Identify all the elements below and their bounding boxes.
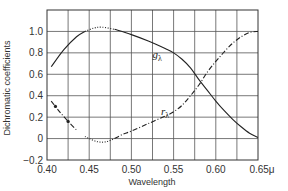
g-lambda-label: gλ: [153, 48, 163, 63]
curves: gλrλ: [51, 27, 258, 142]
x-tick-label: 0.45: [79, 164, 99, 175]
y-tick-labels: −0.200.20.40.60.81.0: [23, 26, 43, 166]
y-axis-label: Dichromatic coefficients: [2, 40, 12, 135]
x-tick-label: 0.65μ: [249, 164, 274, 175]
dichromatic-coefficients-chart: gλrλ 0.400.450.500.550.600.65μ −0.200.20…: [0, 0, 288, 191]
x-tick-label: 0.40: [37, 164, 57, 175]
curve-marker: [67, 120, 70, 123]
y-tick-label: 0: [37, 133, 43, 144]
y-tick-label: 0.4: [29, 90, 43, 101]
y-tick-label: 0.8: [29, 47, 43, 58]
x-tick-label: 0.55: [164, 164, 184, 175]
grid: [47, 10, 258, 160]
x-axis-label: Wavelength: [128, 177, 175, 187]
y-tick-label: 0.6: [29, 69, 43, 80]
y-tick-label: 1.0: [29, 26, 43, 37]
y-tick-label: 0.2: [29, 112, 43, 123]
y-tick-label: −0.2: [23, 155, 43, 166]
curve-marker: [54, 105, 57, 108]
x-tick-label: 0.60: [206, 164, 226, 175]
g-lambda-curve: [115, 29, 258, 137]
x-tick-labels: 0.400.450.500.550.600.65μ: [37, 164, 275, 175]
x-tick-label: 0.50: [122, 164, 142, 175]
